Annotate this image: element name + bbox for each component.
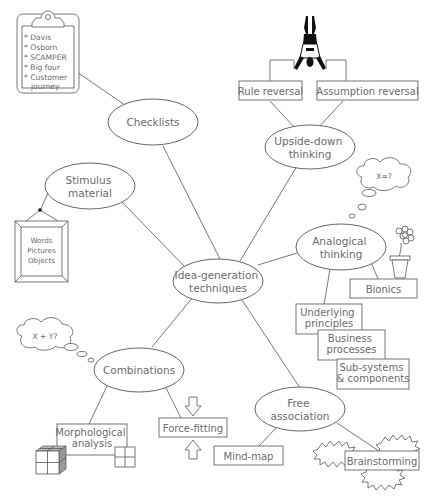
checklist-item: * SCAMPER bbox=[24, 53, 67, 62]
combinations-label: Combinations bbox=[103, 364, 175, 376]
rule-reversal-box: Rule reversal bbox=[238, 81, 303, 100]
subsystems-components-label: Sub-systems & components bbox=[337, 362, 410, 384]
morphological-line2: analysis bbox=[72, 438, 113, 449]
edge-upside-down-assumption bbox=[318, 101, 343, 128]
underlying-line1: Underlying bbox=[300, 307, 354, 318]
checklist-item: * Osborn bbox=[24, 43, 58, 52]
thought-cloud-icon: X=? bbox=[349, 158, 411, 218]
brainstorming-box: Brainstorming bbox=[345, 451, 419, 470]
assumption-reversal-box: Assumption reversal bbox=[316, 81, 418, 100]
analogical-line1: Analogical bbox=[312, 235, 366, 247]
thought-cloud-icon: X + Y? bbox=[17, 318, 94, 362]
center-line2: techniques bbox=[189, 282, 247, 294]
assumption-reversal-label: Assumption reversal bbox=[316, 86, 418, 97]
stimulus-line1: Stimulus bbox=[66, 174, 112, 186]
edge-stimulus-frame bbox=[40, 193, 48, 211]
subsystems-line2: & components bbox=[337, 373, 410, 384]
edge-checklists-clipboard bbox=[74, 70, 125, 105]
checklist-item: * Customer bbox=[24, 73, 68, 82]
checklist-item: * Big four bbox=[24, 63, 61, 72]
free-association-line2: association bbox=[270, 410, 329, 422]
edge-center-combinations bbox=[152, 297, 193, 347]
stimulus-item: Words bbox=[30, 236, 52, 245]
node-free-association: Free association bbox=[255, 387, 345, 431]
edge-center-checklists bbox=[163, 146, 221, 261]
upside-down-line2: thinking bbox=[289, 148, 332, 160]
upside-down-person-icon bbox=[270, 16, 346, 81]
checklists-label: Checklists bbox=[126, 116, 179, 128]
business-processes-box: Business processes bbox=[318, 330, 385, 360]
rule-reversal-label: Rule reversal bbox=[238, 86, 303, 97]
node-upside-down-thinking: Upside-down thinking bbox=[265, 125, 355, 169]
business-processes-label: Business processes bbox=[327, 333, 377, 355]
analogical-line2: thinking bbox=[320, 248, 363, 260]
center-line1: Idea-generation bbox=[175, 269, 259, 281]
cube-grid-icon bbox=[36, 446, 66, 474]
underlying-principles-box: Underlying principles bbox=[296, 304, 362, 334]
free-association-line1: Free bbox=[287, 397, 309, 409]
business-line1: Business bbox=[328, 333, 372, 344]
bionics-label: Bionics bbox=[366, 284, 402, 295]
flower-pot-icon bbox=[390, 226, 414, 278]
subsystems-line1: Sub-systems bbox=[339, 362, 403, 373]
square-grid-icon bbox=[115, 447, 135, 467]
bionics-box: Bionics bbox=[350, 279, 417, 298]
node-analogical-thinking: Analogical thinking bbox=[296, 224, 386, 270]
node-checklists: Checklists bbox=[108, 99, 198, 145]
idea-generation-mind-map: * Davis * Osborn * SCAMPER * Big four * … bbox=[0, 0, 433, 499]
stimulus-label: Stimulus material bbox=[66, 174, 115, 199]
business-line2: processes bbox=[327, 344, 377, 355]
stimulus-item: Pictures bbox=[27, 246, 56, 255]
analogical-label: Analogical thinking bbox=[312, 235, 370, 260]
underlying-line2: principles bbox=[305, 318, 353, 329]
edge-combinations-morphological bbox=[89, 386, 107, 424]
checklist-item: journey bbox=[30, 82, 60, 91]
morphological-line1: Morphological bbox=[55, 427, 125, 438]
edge-center-free-association bbox=[242, 300, 300, 388]
stimulus-line2: material bbox=[68, 187, 112, 199]
node-combinations: Combinations bbox=[94, 348, 184, 392]
edge-analogical-bionics bbox=[371, 262, 378, 279]
node-idea-generation-techniques: Idea-generation techniques bbox=[173, 259, 263, 303]
force-fitting-label: Force-fitting bbox=[163, 423, 223, 434]
force-fitting-box: Force-fitting bbox=[159, 418, 227, 437]
checklist-item: * Davis bbox=[24, 33, 51, 42]
combinations-thought-text: X + Y? bbox=[32, 332, 57, 341]
edge-center-stimulus bbox=[121, 201, 186, 268]
subsystems-components-box: Sub-systems & components bbox=[337, 359, 410, 389]
brainstorming-label: Brainstorming bbox=[347, 456, 418, 467]
upside-down-line1: Upside-down bbox=[274, 135, 342, 147]
stimulus-items: Words Pictures Objects bbox=[27, 236, 56, 265]
edge-center-upside-down bbox=[240, 166, 297, 261]
mind-map-box: Mind-map bbox=[214, 446, 283, 465]
edge-analogical-underlying bbox=[324, 269, 330, 305]
underlying-principles-label: Underlying principles bbox=[300, 307, 358, 329]
node-stimulus-material: Stimulus material bbox=[45, 163, 135, 209]
stimulus-item: Objects bbox=[28, 256, 55, 265]
mind-map-label: Mind-map bbox=[224, 451, 274, 462]
edge-combinations-force-fitting bbox=[165, 386, 181, 418]
analogical-thought-text: X=? bbox=[376, 172, 392, 181]
edge-free-mindmap bbox=[259, 428, 276, 446]
edge-upside-down-rule bbox=[270, 101, 295, 128]
edge-center-analogical bbox=[258, 253, 297, 265]
